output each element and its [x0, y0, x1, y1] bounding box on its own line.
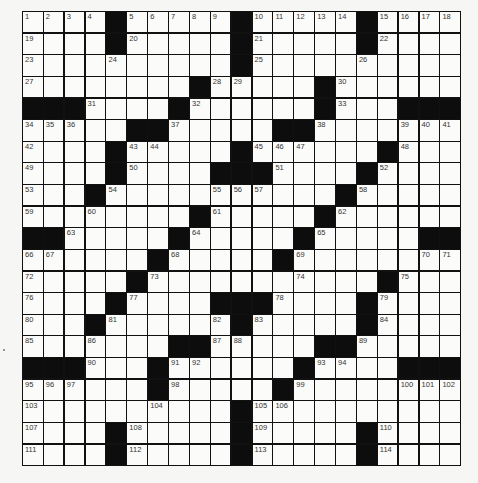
answer-cell[interactable]: [65, 163, 85, 183]
answer-cell[interactable]: [44, 34, 64, 54]
answer-cell[interactable]: [169, 77, 189, 97]
answer-cell[interactable]: 44: [148, 142, 168, 162]
answer-cell[interactable]: [86, 293, 106, 313]
answer-cell[interactable]: 39: [399, 120, 419, 140]
answer-cell[interactable]: [440, 315, 460, 335]
answer-cell[interactable]: [127, 380, 147, 400]
answer-cell[interactable]: [294, 336, 314, 356]
answer-cell[interactable]: [273, 272, 293, 292]
answer-cell[interactable]: 78: [273, 293, 293, 313]
answer-cell[interactable]: [148, 185, 168, 205]
answer-cell[interactable]: [148, 336, 168, 356]
answer-cell[interactable]: 84: [378, 315, 398, 335]
answer-cell[interactable]: [211, 55, 231, 75]
answer-cell[interactable]: 62: [336, 207, 356, 227]
answer-cell[interactable]: [420, 336, 440, 356]
answer-cell[interactable]: [253, 272, 273, 292]
answer-cell[interactable]: 53: [23, 185, 43, 205]
answer-cell[interactable]: 17: [420, 12, 440, 32]
answer-cell[interactable]: [65, 445, 85, 465]
answer-cell[interactable]: 38: [315, 120, 335, 140]
answer-cell[interactable]: [65, 250, 85, 270]
answer-cell[interactable]: [420, 423, 440, 443]
answer-cell[interactable]: 104: [148, 401, 168, 421]
answer-cell[interactable]: [232, 228, 252, 248]
answer-cell[interactable]: 106: [273, 401, 293, 421]
answer-cell[interactable]: [148, 207, 168, 227]
answer-cell[interactable]: 96: [44, 380, 64, 400]
answer-cell[interactable]: [253, 120, 273, 140]
answer-cell[interactable]: [232, 250, 252, 270]
answer-cell[interactable]: [65, 336, 85, 356]
answer-cell[interactable]: 10: [253, 12, 273, 32]
answer-cell[interactable]: [273, 445, 293, 465]
answer-cell[interactable]: [253, 77, 273, 97]
answer-cell[interactable]: [420, 163, 440, 183]
answer-cell[interactable]: [420, 293, 440, 313]
answer-cell[interactable]: [211, 99, 231, 119]
answer-cell[interactable]: 81: [106, 315, 126, 335]
answer-cell[interactable]: [86, 142, 106, 162]
answer-cell[interactable]: [420, 401, 440, 421]
answer-cell[interactable]: [273, 185, 293, 205]
answer-cell[interactable]: [253, 250, 273, 270]
answer-cell[interactable]: [399, 336, 419, 356]
answer-cell[interactable]: 56: [232, 185, 252, 205]
answer-cell[interactable]: [273, 228, 293, 248]
answer-cell[interactable]: [65, 272, 85, 292]
answer-cell[interactable]: 86: [86, 336, 106, 356]
answer-cell[interactable]: [399, 315, 419, 335]
answer-cell[interactable]: [336, 380, 356, 400]
answer-cell[interactable]: [273, 77, 293, 97]
answer-cell[interactable]: [357, 250, 377, 270]
answer-cell[interactable]: 59: [23, 207, 43, 227]
answer-cell[interactable]: [106, 120, 126, 140]
answer-cell[interactable]: [106, 401, 126, 421]
answer-cell[interactable]: [169, 207, 189, 227]
answer-cell[interactable]: 18: [440, 12, 460, 32]
answer-cell[interactable]: [315, 445, 335, 465]
answer-cell[interactable]: 55: [211, 185, 231, 205]
answer-cell[interactable]: [420, 445, 440, 465]
answer-cell[interactable]: [86, 77, 106, 97]
answer-cell[interactable]: [315, 185, 335, 205]
answer-cell[interactable]: 70: [420, 250, 440, 270]
answer-cell[interactable]: [399, 207, 419, 227]
answer-cell[interactable]: [169, 163, 189, 183]
answer-cell[interactable]: [294, 185, 314, 205]
answer-cell[interactable]: [44, 163, 64, 183]
answer-cell[interactable]: [106, 77, 126, 97]
answer-cell[interactable]: [378, 380, 398, 400]
answer-cell[interactable]: [420, 272, 440, 292]
answer-cell[interactable]: [190, 142, 210, 162]
answer-cell[interactable]: [399, 34, 419, 54]
answer-cell[interactable]: [399, 228, 419, 248]
answer-cell[interactable]: [169, 315, 189, 335]
answer-cell[interactable]: [378, 120, 398, 140]
answer-cell[interactable]: 74: [294, 272, 314, 292]
answer-cell[interactable]: [65, 401, 85, 421]
answer-cell[interactable]: [294, 315, 314, 335]
answer-cell[interactable]: [127, 250, 147, 270]
answer-cell[interactable]: [378, 358, 398, 378]
answer-cell[interactable]: 11: [273, 12, 293, 32]
answer-cell[interactable]: [253, 380, 273, 400]
answer-cell[interactable]: [106, 228, 126, 248]
answer-cell[interactable]: 5: [127, 12, 147, 32]
answer-cell[interactable]: [357, 207, 377, 227]
answer-cell[interactable]: 72: [23, 272, 43, 292]
answer-cell[interactable]: [169, 185, 189, 205]
answer-cell[interactable]: [65, 77, 85, 97]
answer-cell[interactable]: 89: [357, 336, 377, 356]
answer-cell[interactable]: [148, 445, 168, 465]
answer-cell[interactable]: 46: [273, 142, 293, 162]
answer-cell[interactable]: 40: [420, 120, 440, 140]
answer-cell[interactable]: [253, 358, 273, 378]
answer-cell[interactable]: [336, 34, 356, 54]
answer-cell[interactable]: [440, 293, 460, 313]
answer-cell[interactable]: 3: [65, 12, 85, 32]
answer-cell[interactable]: [378, 401, 398, 421]
answer-cell[interactable]: 73: [148, 272, 168, 292]
answer-cell[interactable]: [211, 358, 231, 378]
answer-cell[interactable]: 71: [440, 250, 460, 270]
